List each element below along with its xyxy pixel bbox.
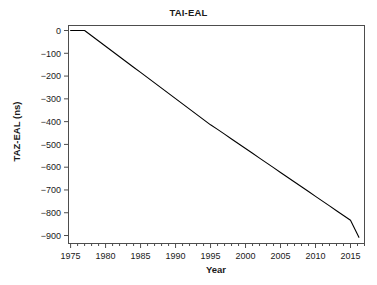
x-axis-tick-label: 1990 bbox=[166, 251, 186, 261]
y-axis-tick-label: −400 bbox=[41, 117, 61, 127]
y-axis-tick-label: 0 bbox=[56, 26, 61, 36]
x-axis-tick-label: 1980 bbox=[96, 251, 116, 261]
y-axis-tick-label: −500 bbox=[41, 140, 61, 150]
y-axis-tick-label: −700 bbox=[41, 185, 61, 195]
y-axis-tick-label: −600 bbox=[41, 162, 61, 172]
x-axis-tick-label: 1985 bbox=[131, 251, 151, 261]
y-axis-tick-label: −900 bbox=[41, 231, 61, 241]
y-axis-tick-label: −200 bbox=[41, 71, 61, 81]
y-axis-tick-label: −100 bbox=[41, 49, 61, 59]
x-axis-tick-label: 1995 bbox=[201, 251, 221, 261]
x-axis-tick-label: 2000 bbox=[236, 251, 256, 261]
y-axis-tick-label: −300 bbox=[41, 94, 61, 104]
x-axis-tick-label: 2005 bbox=[271, 251, 291, 261]
x-axis-tick-label: 1975 bbox=[61, 251, 81, 261]
x-axis-tick-label: 2010 bbox=[306, 251, 326, 261]
y-axis-tick-label: −800 bbox=[41, 208, 61, 218]
chart-plot-area: 1975198019851990199520002005201020150−10… bbox=[0, 0, 377, 285]
y-axis-label: TAZ-EAL (ns) bbox=[11, 72, 22, 192]
data-line-tai-eal bbox=[71, 31, 359, 238]
plot-frame bbox=[69, 26, 365, 244]
x-axis-label: Year bbox=[68, 264, 364, 275]
chart-figure: TAI-EAL 19751980198519901995200020052010… bbox=[0, 0, 377, 285]
x-axis-tick-label: 2015 bbox=[340, 251, 360, 261]
